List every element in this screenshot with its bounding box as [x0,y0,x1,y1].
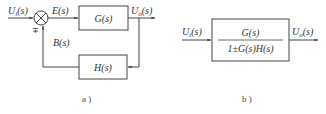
input-label-ui-b: Ui(s) [182,26,202,39]
output-label-uo: Uo(s) [131,5,153,18]
feedback-label: B(s) [53,37,70,49]
input-label-ui: Ui(s) [8,5,28,18]
feedback-take-off-line [128,18,139,67]
block-diagram-canvas: Ui(s) ∓ E(s) G(s) Uo(s) H(s) B(s) a ) Ui… [0,0,326,114]
caption-a: a ) [82,94,91,104]
output-label-uo-b: Uo(s) [292,26,314,39]
diagram-a-closed-loop: Ui(s) ∓ E(s) G(s) Uo(s) H(s) B(s) a ) [8,5,155,104]
feedback-block-label: H(s) [93,62,112,74]
error-label: E(s) [51,5,69,17]
forward-block-label: G(s) [95,13,113,25]
summing-junction-icon [34,11,48,25]
transfer-numerator: G(s) [242,27,260,39]
transfer-denominator: 1±G(s)H(s) [227,43,274,55]
diagram-b-equivalent: Ui(s) G(s) 1±G(s)H(s) Uo(s) b ) [182,19,318,104]
feedback-sign: ∓ [32,26,39,35]
caption-b: b ) [242,94,252,104]
